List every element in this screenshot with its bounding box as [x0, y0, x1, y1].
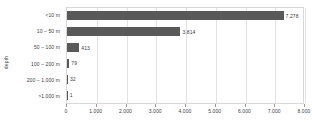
x-axis-tick: [96, 104, 97, 107]
bar: [67, 43, 79, 52]
bar: [67, 91, 68, 100]
x-axis-tick-label: 2.000: [119, 108, 132, 114]
x-axis-tick-label: 5.000: [208, 108, 221, 114]
bar-row: 3.814: [67, 24, 303, 40]
x-axis-tick: [126, 104, 127, 107]
x-axis-tick-label: 8.000: [297, 108, 310, 114]
bar-series: 7.278 3.814 413 79 32 1: [67, 8, 303, 103]
bar-row: 79: [67, 55, 303, 71]
x-axis-tick: [155, 104, 156, 107]
bar-row: 32: [67, 71, 303, 87]
x-axis-tick-label: 3.000: [149, 108, 162, 114]
plot-area: 7.278 3.814 413 79 32 1: [66, 7, 304, 104]
bar: [67, 27, 180, 36]
bar-row: 413: [67, 40, 303, 56]
x-axis-tick: [245, 104, 246, 107]
x-axis-tick: [66, 104, 67, 107]
bar-value-label: 1: [70, 92, 73, 98]
x-axis-tick-labels: 01.0002.0003.0004.0005.0006.0007.0008.00…: [66, 108, 304, 118]
x-axis-tick: [215, 104, 216, 107]
x-axis-tick: [274, 104, 275, 107]
bar-row: 1: [67, 87, 303, 103]
x-axis-tick: [185, 104, 186, 107]
bar-value-label: 79: [71, 60, 77, 66]
bar-value-label: 7.278: [286, 13, 299, 19]
bar-value-label: 413: [81, 45, 90, 51]
y-axis-tick-label: 200 – 1.000 m: [11, 72, 63, 88]
bar-row: 7.278: [67, 8, 303, 24]
x-axis-tick-label: 0: [65, 108, 68, 114]
y-axis-tick-label: 10 – 50 m: [11, 23, 63, 39]
y-axis-tick-label: 100 – 200 m: [11, 56, 63, 72]
x-axis-tick-label: 6.000: [238, 108, 251, 114]
bar-value-label: 32: [70, 76, 76, 82]
x-axis-tick-label: 7.000: [268, 108, 281, 114]
bar: [67, 75, 68, 84]
x-axis-tick: [304, 104, 305, 107]
x-axis-tick-label: 1.000: [89, 108, 102, 114]
y-axis-tick-label: 50 – 100 m: [11, 39, 63, 55]
y-axis-tick-labels: <10 m 10 – 50 m 50 – 100 m 100 – 200 m 2…: [11, 7, 63, 104]
y-axis-tick-label: <10 m: [11, 7, 63, 23]
bar: [67, 11, 284, 20]
x-axis-tick-label: 4.000: [178, 108, 191, 114]
bar-chart: depth <10 m 10 – 50 m 50 – 100 m 100 – 2…: [0, 0, 312, 125]
y-axis-tick-label: >1.000 m: [11, 88, 63, 104]
bar: [67, 59, 69, 68]
bar-value-label: 3.814: [182, 29, 195, 35]
gridline: [305, 8, 306, 103]
